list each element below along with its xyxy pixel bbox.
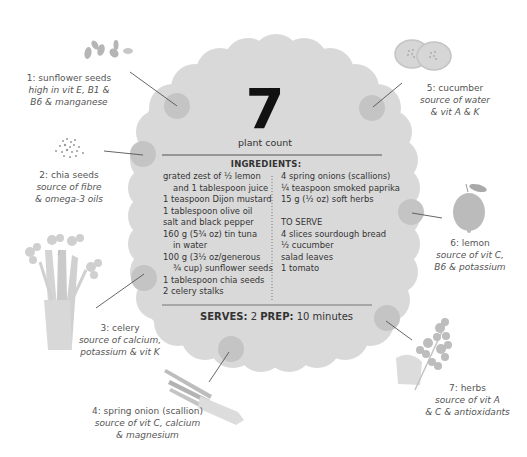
ingredients-left-column: grated zest of ½ lemon and 1 tablespoon … bbox=[163, 171, 273, 298]
plant-label-celery: 3: celery source of calcium, potassium &… bbox=[70, 322, 170, 358]
ingredients-title: INGREDIENTS: bbox=[150, 159, 382, 169]
plant-count-label: plant count bbox=[215, 137, 315, 148]
marker-6 bbox=[398, 199, 424, 225]
plant-label-lemon: 6: lemon source of vit C, B6 & potassium bbox=[420, 237, 520, 273]
plant-label-sunflower-seeds: 1: sunflower seeds high in vit E, B1 & B… bbox=[14, 72, 124, 108]
ingredient-item: 1 teaspoon Dijon mustard bbox=[163, 194, 273, 206]
ingredient-item: 1 tomato bbox=[281, 263, 400, 275]
lemon-icon bbox=[453, 182, 488, 233]
marker-3 bbox=[131, 265, 157, 291]
serves-value: 2 bbox=[251, 311, 257, 322]
ingredient-item: ¾ cup) sunflower seeds bbox=[163, 263, 273, 275]
plant-count-number: 7 bbox=[215, 82, 315, 136]
marker-5 bbox=[359, 95, 385, 121]
prep-label: PREP: bbox=[260, 311, 293, 322]
to-serve-heading: TO SERVE bbox=[281, 217, 400, 229]
ingredient-item: 160 g (5¾ oz) tin tuna bbox=[163, 229, 273, 241]
ingredient-item: in water bbox=[163, 240, 273, 252]
ingredient-item: 15 g (½ oz) soft herbs bbox=[281, 194, 400, 206]
ingredient-item: 1 tablespoon chia seeds bbox=[163, 275, 273, 287]
ingredient-item: 1 tablespoon olive oil bbox=[163, 206, 273, 218]
serves-prep-line: SERVES: 2 PREP: 10 minutes bbox=[200, 311, 360, 322]
spacer bbox=[281, 206, 400, 218]
chia-seeds-icon bbox=[55, 138, 84, 158]
ingredient-item: 2 celery stalks bbox=[163, 286, 273, 298]
ingredient-item: salt and black pepper bbox=[163, 217, 273, 229]
ingredient-item: 4 spring onions (scallions) bbox=[281, 171, 400, 183]
prep-value: 10 minutes bbox=[297, 311, 353, 322]
marker-4 bbox=[218, 336, 244, 362]
serves-label: SERVES: bbox=[200, 311, 248, 322]
plant-label-cucumber: 5: cucumber source of water & vit A & K bbox=[405, 82, 505, 118]
cucumber-icon bbox=[395, 40, 451, 70]
ingredient-item: ½ cucumber bbox=[281, 240, 400, 252]
ingredient-item: 4 slices sourdough bread bbox=[281, 229, 400, 241]
plant-label-chia-seeds: 2: chia seeds source of fibre & omega-3 … bbox=[14, 169, 124, 205]
herbs-icon bbox=[396, 318, 452, 390]
plant-label-spring-onion: 4: spring onion (scallion) source of vit… bbox=[70, 405, 225, 441]
marker-7 bbox=[374, 305, 400, 331]
ingredient-item: grated zest of ½ lemon bbox=[163, 171, 273, 183]
recipe-infographic: 7 plant count INGREDIENTS: grated zest o… bbox=[0, 0, 527, 457]
plant-label-herbs: 7: herbs source of vit A & C & antioxida… bbox=[410, 382, 525, 418]
ingredient-item: 100 g (3½ oz/generous bbox=[163, 252, 273, 264]
ingredient-item: salad leaves bbox=[281, 252, 400, 264]
ingredients-right-column: 4 spring onions (scallions) ¼ teaspoon s… bbox=[281, 171, 400, 275]
ingredient-item: ¼ teaspoon smoked paprika bbox=[281, 183, 400, 195]
ingredient-item: and 1 tablespoon juice bbox=[163, 183, 273, 195]
sunflower-seeds-icon bbox=[84, 39, 133, 59]
